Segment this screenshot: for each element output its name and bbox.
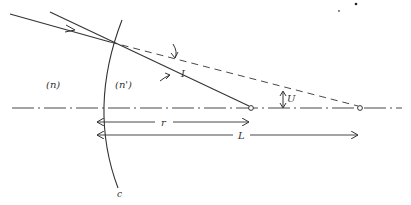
label-medium-left: (n): [46, 79, 60, 90]
label-angle-u: U: [287, 93, 296, 104]
angle-arrow-head-icon: [171, 52, 178, 58]
stray-dot: [355, 3, 358, 6]
label-angle-i: I: [180, 68, 186, 79]
stray-dot: [338, 10, 340, 12]
label-surface: c: [117, 189, 122, 199]
label-radius: r: [161, 117, 167, 128]
incident-ray-arrow-icon: [65, 25, 75, 32]
extended-ray-dashed: [110, 42, 358, 106]
center-of-curvature-point: [249, 106, 254, 111]
refraction-diagram: I U (n) (n') r L c: [0, 0, 411, 205]
label-distance: L: [237, 130, 245, 141]
refracted-ray: [50, 12, 249, 106]
incident-ray: [10, 14, 110, 42]
label-medium-right: (n'): [115, 79, 132, 90]
axis-intersection-point: [358, 106, 363, 111]
